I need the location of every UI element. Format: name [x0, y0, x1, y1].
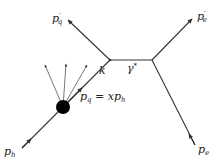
label-p-prime-q: p′q	[52, 12, 63, 26]
outgoing-electron-line	[152, 19, 192, 60]
label-p-e: pe	[198, 143, 209, 157]
feynman-diagram: ph pq = xph k γ* p′q p′e pe	[0, 0, 219, 161]
hadron-blob	[56, 100, 70, 114]
label-p-h: ph	[4, 145, 16, 159]
incoming-electron-line	[152, 60, 195, 145]
outgoing-quark-line	[68, 20, 110, 60]
label-p-prime-e: p′e	[197, 10, 207, 24]
label-k: k	[99, 64, 106, 77]
incoming-hadron-line	[22, 107, 63, 148]
label-gamma-star: γ*	[127, 62, 138, 75]
label-p-q-equals-x-p-h: pq = xph	[80, 90, 126, 104]
